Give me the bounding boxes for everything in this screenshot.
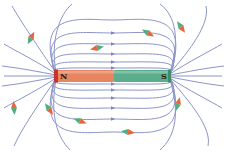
compass-south-tip	[11, 108, 18, 115]
field-line-north-open	[12, 6, 56, 73]
south-pole-label: S	[161, 71, 167, 81]
field-line-lower	[52, 78, 174, 108]
field-line-upper	[52, 44, 174, 74]
field-arrow-upper	[111, 31, 115, 35]
field-line-south-open	[170, 77, 224, 86]
compass-north-tip	[175, 96, 183, 104]
field-arrow-lower	[111, 82, 115, 86]
field-arrow-upper	[111, 52, 115, 56]
field-line-south-open	[170, 66, 224, 75]
compass-south-tip	[121, 128, 129, 135]
field-line-north-open	[2, 77, 56, 86]
compass-needle	[90, 44, 105, 53]
compass-north-tip	[10, 101, 17, 108]
compass-needle	[10, 101, 17, 115]
north-pole-cap	[54, 70, 58, 83]
field-line-north-open	[54, 80, 70, 150]
field-line-south-open	[170, 44, 222, 74]
field-line-north-open	[2, 66, 56, 75]
compass-south-tip	[96, 44, 104, 51]
field-diagram-canvas: N S	[0, 0, 226, 152]
field-arrow-lower	[111, 117, 115, 121]
field-line-south-open	[160, 80, 175, 150]
compass-needle	[121, 128, 136, 136]
field-line-lower	[50, 78, 176, 133]
field-arrow-upper	[111, 42, 115, 46]
field-arrow-lower	[111, 106, 115, 110]
bar-magnet: N S	[54, 70, 171, 83]
field-arrow-lower	[111, 96, 115, 100]
compass-needle	[72, 116, 87, 126]
south-pole-cap	[168, 70, 171, 83]
north-pole-label: N	[60, 71, 67, 81]
bar-magnet-diagram: N S	[0, 0, 226, 152]
field-arrow-upper	[111, 60, 115, 64]
compass-needle	[175, 20, 188, 35]
field-line-north-open	[4, 78, 56, 108]
field-line-north-open	[4, 44, 56, 74]
compass-north-tip	[90, 45, 98, 52]
field-line-upper	[50, 19, 176, 74]
field-arrow-upper	[111, 66, 115, 70]
field-arrow-lower	[111, 88, 115, 92]
magnet-highlight	[58, 71, 168, 74]
